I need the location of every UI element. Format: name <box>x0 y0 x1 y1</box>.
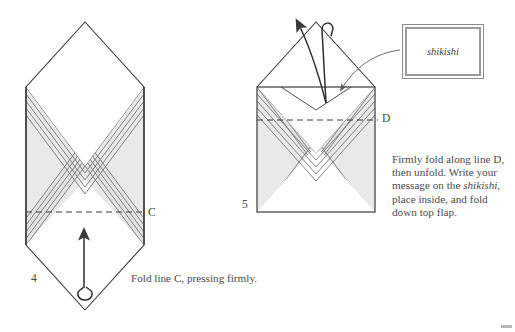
fold-line-label-d: D <box>382 112 390 124</box>
shikishi-callout-inner: shikishi <box>405 27 481 76</box>
shikishi-callout-box: shikishi <box>402 24 484 79</box>
figure-number-4: 4 <box>31 272 37 284</box>
shikishi-label: shikishi <box>427 46 459 57</box>
origami-instruction-page: shikishi C D 4 5 Fold line C, pressing f… <box>0 0 515 332</box>
figure-4-diagram <box>0 22 184 310</box>
fold-line-label-c: C <box>148 206 156 218</box>
figure-5-caption: Firmly fold along line D, then unfold. W… <box>392 153 514 219</box>
figure-number-5: 5 <box>242 198 248 210</box>
shikishi-inline-term: shikishi <box>463 179 497 191</box>
page-corner-mark <box>501 325 512 328</box>
figure-4-caption: Fold line C, pressing firmly. <box>131 272 257 285</box>
figure-5-diagram <box>217 21 415 272</box>
